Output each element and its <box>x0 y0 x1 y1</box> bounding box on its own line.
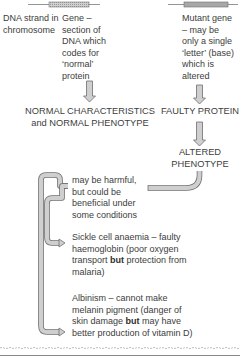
arrow-down-icon <box>84 81 96 102</box>
arrow-right-icon <box>59 239 65 247</box>
mutant-gene-label: Mutant gene – may be only a single ‘lett… <box>182 13 238 82</box>
arrow-down-icon <box>194 122 206 146</box>
dashed-separator <box>0 348 240 349</box>
mutant-chromosome-icon <box>168 2 238 7</box>
altered-phenotype-line1: ALTERED <box>165 147 235 159</box>
normal-chromosome-icon <box>28 2 100 7</box>
example-albinism: Albinism – cannot make melanin pigment (… <box>72 293 198 339</box>
normal-outcome-line1: NORMAL CHARACTERISTICS <box>22 105 158 117</box>
arrow-down-icon <box>194 85 206 104</box>
normal-outcome-line2: and NORMAL PHENOTYPE <box>22 117 158 129</box>
normal-outcome: NORMAL CHARACTERISTICS and NORMAL PHENOT… <box>22 105 158 129</box>
faulty-protein-label: FAULTY PROTEIN <box>160 105 240 117</box>
dna-strand-label: DNA strand in chromosome <box>3 13 63 36</box>
example-sickle-cell: Sickle cell anaemia – faulty haemoglobin… <box>72 232 198 278</box>
arrow-right-icon <box>59 328 65 336</box>
brace-branch-arrows <box>41 175 68 336</box>
effects-summary: may be harmful, but could be beneficial … <box>72 175 148 221</box>
gene-label: Gene – section of DNA which codes for ‘n… <box>62 13 118 82</box>
altered-phenotype: ALTERED PHENOTYPE <box>165 147 235 170</box>
altered-phenotype-line2: PHENOTYPE <box>165 159 235 171</box>
